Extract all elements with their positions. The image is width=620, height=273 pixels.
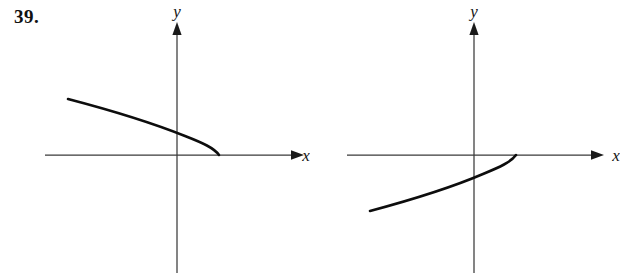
y-axis-arrowhead-icon-right <box>469 22 478 35</box>
y-axis-arrowhead-icon-left <box>172 22 181 35</box>
y-axis-label-right: y <box>468 2 478 21</box>
x-axis-arrowhead-icon-right <box>591 150 604 160</box>
x-axis-label-right: x <box>611 146 620 165</box>
figure-root: 39. x y x y <box>0 0 620 273</box>
curve-lower-branch-right <box>370 155 516 211</box>
curve-upper-branch-left <box>68 99 219 155</box>
x-axis-label-left: x <box>301 146 310 165</box>
graph-panel-right: x y <box>310 0 620 273</box>
y-axis-label-left: y <box>171 2 181 21</box>
graph-panel-left: x y <box>0 0 310 273</box>
